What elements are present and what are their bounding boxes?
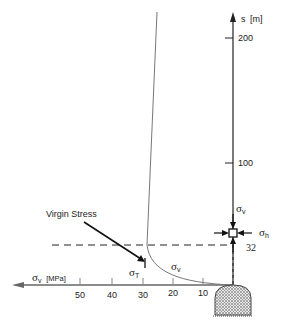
virgin-stress-label: Virgin Stress	[46, 209, 97, 219]
axis-arrow-up-icon	[230, 12, 236, 22]
element-sigma-h-label: σh	[259, 226, 269, 239]
s-axis-label: s [m]	[241, 14, 263, 24]
element-sigma-v-label: σv	[236, 202, 245, 215]
virgin-stress-line	[147, 12, 157, 245]
tick-label-30: 30	[138, 290, 148, 300]
sigma-v-curve-label: σv	[171, 260, 180, 273]
axis-arrow-left-icon	[12, 282, 24, 288]
tick-label-10: 10	[198, 288, 208, 298]
sigma-sub: v	[38, 277, 42, 284]
horizontal-axis-label: σv [MPa]	[32, 271, 66, 284]
tick-label-100: 100	[238, 158, 253, 168]
s-axis-symbol: s	[241, 14, 246, 24]
tunnel-section	[213, 285, 253, 316]
tick-label-40: 40	[107, 290, 117, 300]
sigma-sub: h	[265, 232, 269, 239]
depth-marker-label: 32	[246, 242, 256, 253]
vertical-axis	[225, 12, 236, 285]
sigma-t-label: σT	[129, 266, 139, 279]
axis-unit: [MPa]	[46, 274, 66, 283]
sigma-sub: v	[177, 266, 181, 273]
sigma-sub: v	[242, 208, 246, 215]
tick-label-20: 20	[168, 288, 178, 298]
tick-label-200: 200	[238, 33, 253, 43]
sigma-sub: T	[135, 272, 139, 279]
tick-label-50: 50	[75, 290, 85, 300]
s-axis-unit: [m]	[250, 14, 263, 24]
element-square-icon	[229, 229, 237, 237]
sigma-v-curve	[147, 245, 233, 285]
